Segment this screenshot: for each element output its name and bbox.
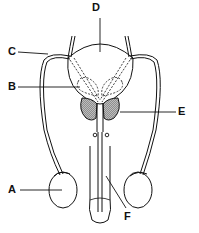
label-b: B xyxy=(8,81,16,92)
bulbourethral-gland-left xyxy=(93,133,97,137)
urethra xyxy=(97,104,103,212)
prostate-left xyxy=(81,98,97,120)
vas-deferens-right-inner xyxy=(130,58,157,174)
bladder xyxy=(68,44,133,104)
label-e: E xyxy=(178,106,185,117)
glans xyxy=(90,198,110,200)
testis-right xyxy=(124,172,152,208)
label-a: A xyxy=(8,184,16,195)
vas-deferens-left-inner xyxy=(44,58,71,174)
prostate-right xyxy=(103,98,119,120)
seminal-vesicles xyxy=(70,58,130,102)
label-d: D xyxy=(92,2,100,13)
label-c: C xyxy=(8,46,16,57)
label-f: F xyxy=(124,211,131,222)
penis xyxy=(89,146,110,223)
anatomy-diagram xyxy=(0,0,199,233)
bulbourethral-gland-right xyxy=(105,133,109,137)
